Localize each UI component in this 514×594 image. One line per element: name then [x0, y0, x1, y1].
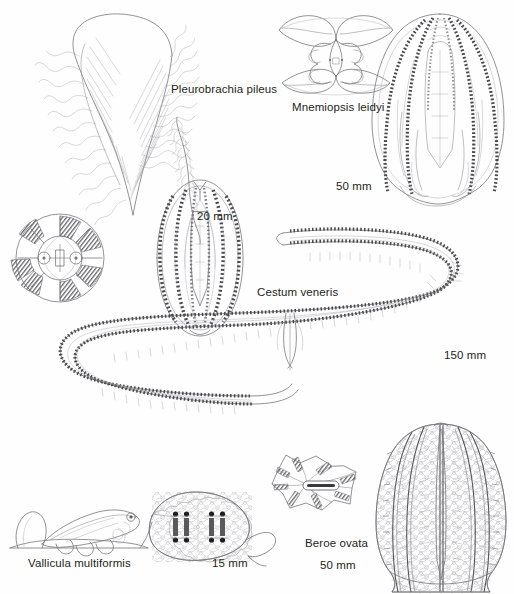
pleurobrachia-cross-section: [11, 214, 104, 302]
scale-label-cestum: 150 mm: [444, 349, 486, 362]
vallicula-spread-form: [149, 492, 275, 566]
vallicula-lateral: [10, 510, 152, 556]
label-cestum-veneris: Cestum veneris: [257, 286, 338, 299]
cestum-mouth-region: [277, 313, 303, 370]
illustration-plate: .s{fill:none;stroke:#6f6f74;stroke-width…: [0, 0, 514, 594]
beroe-body: [370, 420, 514, 594]
label-mnemiopsis-leidyi: Mnemiopsis leidyi: [292, 101, 384, 114]
scale-label-beroe: 50 mm: [320, 559, 356, 572]
beroe-aboral-view: [272, 455, 356, 510]
scale-label-pleurobrachia: 20 mm: [197, 210, 233, 223]
cestum-body: [60, 229, 463, 414]
scale-label-vallicula: 15 mm: [212, 557, 248, 570]
mnemiopsis-body: [372, 14, 504, 206]
pleurobrachia-body: [157, 180, 243, 336]
label-vallicula-multiformis: Vallicula multiformis: [28, 557, 131, 570]
scale-label-mnemiopsis: 50 mm: [336, 180, 372, 193]
mnemiopsis-oral-view: [279, 16, 393, 95]
label-beroe-ovata: Beroe ovata: [305, 537, 368, 550]
pleurobrachia-second-tentacle: [168, 117, 201, 244]
pleurobrachia-tentacle-plume: [35, 14, 199, 225]
label-pleurobrachia-pileus: Pleurobrachia pileus: [171, 83, 277, 96]
